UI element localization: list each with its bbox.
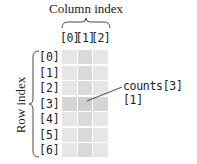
column-label: [0] — [60, 31, 76, 45]
cell-6-0 — [62, 143, 77, 157]
column-index-title: Column index — [48, 1, 124, 17]
row-label: [1] — [39, 66, 61, 82]
column-brace-icon — [60, 17, 112, 29]
row-index-title: Row index — [13, 70, 29, 140]
row-labels: [0] [1] [2] [3] [4] [5] [6] — [39, 50, 61, 159]
row-label: [2] — [39, 81, 61, 97]
cell-6-1 — [78, 143, 93, 157]
cell-0-2 — [93, 50, 108, 64]
callout-label: counts[3][1] — [123, 79, 197, 107]
row-label: [4] — [39, 112, 61, 128]
row-label: [6] — [39, 143, 61, 159]
cell-0-1 — [78, 50, 93, 64]
row-label: [0] — [39, 50, 61, 66]
row-label: [5] — [39, 128, 61, 144]
cell-5-1 — [78, 128, 93, 142]
cell-5-0 — [62, 128, 77, 142]
cell-4-0 — [62, 112, 77, 126]
row-label: [3] — [39, 97, 61, 113]
column-label: [2] — [91, 31, 107, 45]
cell-4-1 — [78, 112, 93, 126]
cell-4-2 — [93, 112, 108, 126]
column-labels: [0] [1] [2] — [60, 31, 112, 45]
cell-6-2 — [93, 143, 108, 157]
cell-5-2 — [93, 128, 108, 142]
column-label: [1] — [76, 31, 92, 45]
cell-0-0 — [62, 50, 77, 64]
